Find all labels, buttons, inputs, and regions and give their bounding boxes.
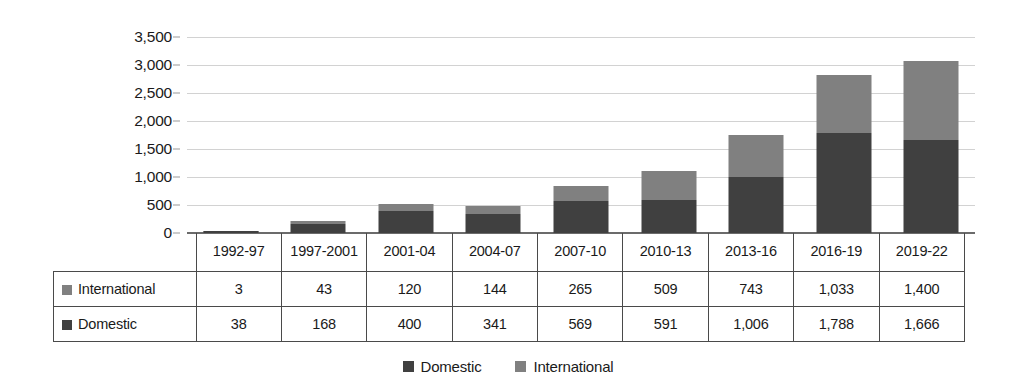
table-cell: 1,006 — [708, 307, 793, 342]
bar-stack[interactable] — [904, 61, 959, 233]
legend-color-swatch-icon — [403, 361, 414, 372]
legend-color-swatch-icon — [515, 361, 526, 372]
bar-stack[interactable] — [553, 186, 608, 233]
y-axis-tick-mark — [173, 177, 180, 178]
table-cell: 400 — [367, 307, 452, 342]
bar-stack[interactable] — [466, 206, 521, 233]
table-corner-cell — [54, 233, 197, 272]
table-row-label: International — [54, 272, 197, 307]
table-cell: 1,788 — [794, 307, 879, 342]
table-column-header: 1997-2001 — [281, 233, 366, 272]
bar-segment-domestic[interactable] — [291, 224, 346, 233]
y-axis-tick-label: 2,000 — [134, 112, 172, 130]
chart-legend: DomesticInternational — [0, 358, 1016, 375]
y-axis-tick-mark — [173, 37, 180, 38]
table-column-header: 2004-07 — [452, 233, 537, 272]
bar-segment-international[interactable] — [378, 204, 433, 211]
stacked-bar-chart-with-data-table: 05001,0001,5002,0002,5003,0003,500 1992-… — [0, 0, 1016, 391]
bar-segment-domestic[interactable] — [378, 211, 433, 233]
y-axis-tick-label: 3,500 — [134, 28, 172, 46]
table-cell: 743 — [708, 272, 793, 307]
table-cell: 120 — [367, 272, 452, 307]
bar-segment-domestic[interactable] — [729, 177, 784, 233]
y-axis-tick-mark — [173, 149, 180, 150]
data-table: 1992-971997-20012001-042004-072007-10201… — [53, 233, 965, 342]
legend-item[interactable]: Domestic — [403, 358, 482, 375]
table-cell: 341 — [452, 307, 537, 342]
y-axis-tick-mark — [173, 121, 180, 122]
y-axis-tick-mark — [173, 93, 180, 94]
table-column-header: 2016-19 — [794, 233, 879, 272]
table-cell: 168 — [281, 307, 366, 342]
table-cell: 3 — [196, 272, 281, 307]
legend-item[interactable]: International — [515, 358, 613, 375]
table-row-label: Domestic — [54, 307, 197, 342]
bar-segment-domestic[interactable] — [904, 140, 959, 233]
table-cell: 144 — [452, 272, 537, 307]
table-column-header: 2007-10 — [538, 233, 623, 272]
table-cell: 1,033 — [794, 272, 879, 307]
bar-stack[interactable] — [291, 221, 346, 233]
bar-column — [275, 37, 363, 233]
series-color-swatch-icon — [62, 320, 72, 330]
table-row-label-text: Domestic — [78, 316, 137, 332]
bar-segment-international[interactable] — [729, 135, 784, 177]
bar-segment-international[interactable] — [641, 171, 696, 200]
bar-column — [362, 37, 450, 233]
table-row: Domestic381684003415695911,0061,7881,666 — [54, 307, 965, 342]
table-cell: 43 — [281, 272, 366, 307]
bar-segment-international[interactable] — [816, 75, 871, 133]
table-column-header: 2013-16 — [708, 233, 793, 272]
y-axis-tick-mark — [173, 65, 180, 66]
bar-column — [800, 37, 888, 233]
table-cell: 509 — [623, 272, 708, 307]
bar-stack[interactable] — [729, 135, 784, 233]
table-cell: 569 — [538, 307, 623, 342]
bar-stack[interactable] — [378, 204, 433, 233]
table-cell: 591 — [623, 307, 708, 342]
y-axis-tick-label: 1,500 — [134, 140, 172, 158]
bar-stack[interactable] — [641, 171, 696, 233]
bar-segment-international[interactable] — [466, 206, 521, 214]
table-column-header: 1992-97 — [196, 233, 281, 272]
bar-column — [712, 37, 800, 233]
table-row: International3431201442655097431,0331,40… — [54, 272, 965, 307]
bar-segment-international[interactable] — [904, 61, 959, 139]
y-axis-tick-label: 1,000 — [134, 168, 172, 186]
y-axis-tick-mark — [173, 205, 180, 206]
table-cell: 38 — [196, 307, 281, 342]
table-cell: 1,666 — [879, 307, 965, 342]
bar-column — [625, 37, 713, 233]
table-header-row: 1992-971997-20012001-042004-072007-10201… — [54, 233, 965, 272]
bar-column — [187, 37, 275, 233]
bar-column — [450, 37, 538, 233]
y-axis-tick-label: 2,500 — [134, 84, 172, 102]
bar-column — [887, 37, 975, 233]
table-cell: 1,400 — [879, 272, 965, 307]
y-axis-tick-label: 3,000 — [134, 56, 172, 74]
bar-stack[interactable] — [816, 75, 871, 233]
bars-layer — [187, 37, 975, 233]
bar-column — [537, 37, 625, 233]
legend-item-label: Domestic — [421, 358, 482, 375]
bar-segment-domestic[interactable] — [466, 214, 521, 233]
table-row-label-text: International — [78, 281, 155, 297]
series-color-swatch-icon — [62, 285, 72, 295]
legend-item-label: International — [533, 358, 613, 375]
y-axis-tick-label: 500 — [147, 196, 172, 214]
bar-segment-domestic[interactable] — [816, 133, 871, 233]
bar-segment-international[interactable] — [553, 186, 608, 201]
table-column-header: 2019-22 — [879, 233, 965, 272]
table-cell: 265 — [538, 272, 623, 307]
table-column-header: 2001-04 — [367, 233, 452, 272]
bar-segment-domestic[interactable] — [641, 200, 696, 233]
bar-segment-domestic[interactable] — [553, 201, 608, 233]
table-column-header: 2010-13 — [623, 233, 708, 272]
